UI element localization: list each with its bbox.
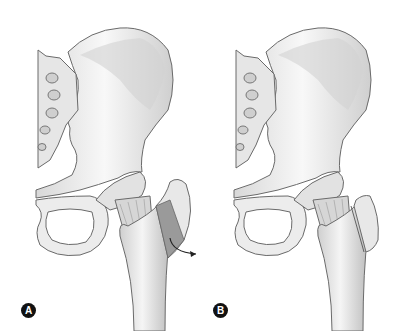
hip-illustration-b xyxy=(198,0,397,331)
panel-label-b: B xyxy=(213,303,228,318)
panel-label-a: A xyxy=(21,303,36,318)
panel-a: A xyxy=(0,0,200,331)
panel-b: B xyxy=(198,0,397,331)
hip-illustration-a xyxy=(0,0,200,331)
